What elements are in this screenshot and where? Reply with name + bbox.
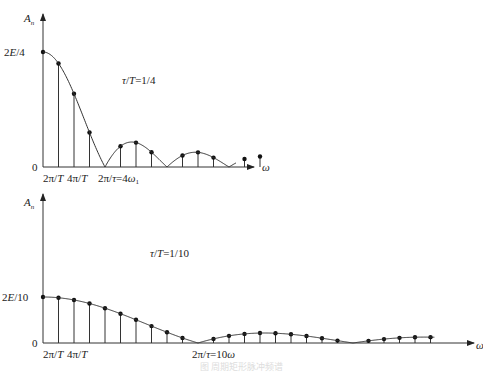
- bottom-x-axis-label: ω: [476, 339, 483, 351]
- top-zero-label: 0: [32, 161, 38, 173]
- bottom-envelope: [43, 297, 434, 343]
- top-tick-4pi-T: 4π/T: [67, 172, 88, 184]
- top-ratio-label: τ/T=1/4: [122, 74, 156, 86]
- top-tick-2pi-tau: 2π/τ=4ω1: [98, 172, 140, 186]
- top-tick-2pi-T: 2π/T: [43, 172, 64, 184]
- bottom-plot: An 2E/10 0 ω 2π/T 4π/T 2π/τ=10ω τ/T=1/10: [2, 194, 483, 360]
- top-peak-label: 2E/4: [4, 46, 25, 58]
- bottom-y-axis-label: An: [23, 196, 35, 211]
- top-envelope: [43, 52, 236, 167]
- top-x-axis-label: ω: [262, 161, 270, 173]
- top-y-axis-label: An: [23, 12, 35, 27]
- bottom-tick-4pi-T: 4π/T: [67, 348, 88, 360]
- figure-caption: 图 周期矩形脉冲频谱: [0, 360, 483, 373]
- bottom-peak-label: 2E/10: [2, 291, 29, 303]
- bottom-zero-label: 0: [32, 337, 38, 349]
- spectral-point: [242, 157, 246, 161]
- bottom-spectral-lines: [41, 295, 433, 343]
- spectrum-figure: An 2E/4 0 ω 2π/T 4π/T 2π/τ=4ω1 τ/T=1/4 A…: [0, 0, 483, 375]
- bottom-ratio-label: τ/T=1/10: [150, 247, 189, 259]
- bottom-tick-2pi-T: 2π/T: [43, 348, 64, 360]
- bottom-tick-2pi-tau: 2π/τ=10ω: [192, 348, 235, 360]
- top-spectral-lines: [41, 50, 262, 167]
- spectral-point: [258, 154, 262, 158]
- top-plot: An 2E/4 0 ω 2π/T 4π/T 2π/τ=4ω1 τ/T=1/4: [4, 12, 270, 186]
